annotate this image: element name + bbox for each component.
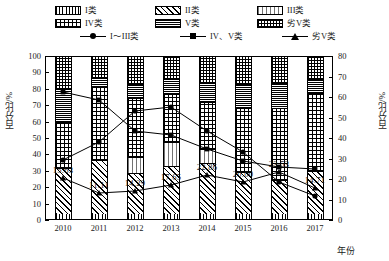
y-axis-left-tick bbox=[45, 72, 49, 73]
y-axis-left-tick-label: 70 bbox=[15, 100, 41, 110]
legend-label-II: II类 bbox=[185, 6, 200, 15]
bar-segment-V类 bbox=[92, 78, 107, 87]
legend-label-line-IV-V: IV、V类 bbox=[210, 32, 243, 41]
bar-segment-I类 bbox=[236, 214, 251, 219]
bar-segment-V类 bbox=[164, 79, 179, 93]
stacked-bar[interactable] bbox=[235, 56, 252, 220]
legend-label-line-inferior-V: 劣V类 bbox=[312, 32, 336, 41]
y-axis-left-tick-label: 90 bbox=[15, 67, 41, 77]
legend-swatch-I-icon bbox=[55, 6, 81, 15]
y-axis-right-tick-label: 70 bbox=[338, 72, 364, 82]
bar-segment-I类 bbox=[128, 214, 143, 219]
data-label-inferior-V: 20.00 bbox=[223, 169, 263, 179]
bar-segment-I类 bbox=[308, 214, 323, 219]
y-axis-right-tick bbox=[329, 220, 333, 221]
bar-segment-III类 bbox=[128, 157, 143, 173]
bar-segment-劣V类 bbox=[236, 56, 251, 84]
bar-segment-劣V类 bbox=[200, 56, 215, 83]
y-axis-left-tick bbox=[45, 138, 49, 139]
y-axis-left-tick-label: 10 bbox=[15, 199, 41, 209]
stacked-bar[interactable] bbox=[127, 56, 144, 220]
bar-segment-V类 bbox=[308, 79, 323, 93]
x-axis-tick-label: 2016 bbox=[259, 223, 299, 233]
y-axis-left-tick-label: 30 bbox=[15, 166, 41, 176]
y-axis-left-tick bbox=[45, 154, 49, 155]
bar-segment-IV类 bbox=[200, 102, 215, 149]
stacked-bar[interactable] bbox=[271, 56, 288, 220]
bar-segment-劣V类 bbox=[272, 56, 287, 83]
bar-segment-IV类 bbox=[164, 94, 179, 142]
bar-segment-I类 bbox=[272, 214, 287, 219]
bar-segment-IV类 bbox=[236, 108, 251, 172]
chart-root: I类 II类 III类 IV类 V类 劣V类 bbox=[0, 0, 389, 261]
bar-segment-I类 bbox=[56, 214, 71, 219]
bar-segment-V类 bbox=[56, 89, 71, 122]
legend-item-inferior-V[interactable]: 劣V类 bbox=[257, 19, 311, 28]
legend-item-V[interactable]: V类 bbox=[155, 19, 257, 28]
legend-label-V: V类 bbox=[185, 19, 200, 28]
legend-row-1: I类 II类 III类 bbox=[55, 6, 305, 15]
y-axis-right-tick-label: 10 bbox=[338, 195, 364, 205]
y-axis-right-tick bbox=[329, 138, 333, 139]
stacked-bar[interactable] bbox=[91, 56, 108, 220]
legend-label-IV: IV类 bbox=[85, 19, 103, 28]
y-axis-left-tick-label: 40 bbox=[15, 149, 41, 159]
x-axis-tick-label: 2015 bbox=[223, 223, 263, 233]
y-axis-right-tick bbox=[329, 200, 333, 201]
stacked-bar[interactable] bbox=[307, 56, 324, 220]
bar-segment-I类 bbox=[200, 214, 215, 219]
legend-item-line-inferior-V[interactable]: 劣V类 bbox=[282, 32, 336, 41]
x-axis-tick-label: 2013 bbox=[151, 223, 191, 233]
x-axis-tick-label: 2014 bbox=[187, 223, 227, 233]
legend-label-III: III类 bbox=[287, 6, 305, 15]
x-axis-tick-label: 2010 bbox=[43, 223, 83, 233]
y-axis-left-tick bbox=[45, 105, 49, 106]
bar-segment-III类 bbox=[200, 149, 215, 163]
y-axis-left-tick bbox=[45, 220, 49, 221]
y-axis-left-title: 百分比/% bbox=[2, 92, 15, 129]
y-axis-right-tick bbox=[329, 77, 333, 78]
data-label-inferior-V: 11.11 bbox=[79, 180, 119, 190]
y-axis-left-tick-label: 100 bbox=[15, 51, 41, 61]
legend-item-II[interactable]: II类 bbox=[155, 6, 257, 15]
bar-segment-劣V类 bbox=[308, 56, 323, 79]
legend-row-3: I～III类 IV、V类 劣V类 bbox=[80, 32, 336, 41]
stacked-bar[interactable] bbox=[163, 56, 180, 220]
y-axis-left-tick bbox=[45, 89, 49, 90]
stacked-bar[interactable] bbox=[55, 56, 72, 220]
legend-label-inferior-V: 劣V类 bbox=[287, 19, 311, 28]
data-label-inferior-V: 14.29 bbox=[115, 178, 155, 188]
y-axis-right-tick bbox=[329, 97, 333, 98]
legend-item-line-I-III[interactable]: I～III类 bbox=[80, 32, 180, 41]
data-label-inferior-V: 22.86 bbox=[187, 162, 227, 172]
bar-segment-IV类 bbox=[308, 93, 323, 170]
legend-item-line-IV-V[interactable]: IV、V类 bbox=[180, 32, 282, 41]
legend-item-I[interactable]: I类 bbox=[55, 6, 155, 15]
bar-segment-劣V类 bbox=[92, 56, 107, 78]
bar-segment-V类 bbox=[200, 83, 215, 102]
y-axis-left-tick-label: 60 bbox=[15, 117, 41, 127]
y-axis-right-tick-label: 20 bbox=[338, 174, 364, 184]
y-axis-left-tick bbox=[45, 187, 49, 188]
legend-swatch-II-icon bbox=[155, 6, 181, 15]
legend-label-line-I-III: I～III类 bbox=[110, 32, 139, 41]
x-axis-title: 年份 bbox=[337, 244, 355, 257]
y-axis-right-tick-label: 40 bbox=[338, 133, 364, 143]
legend-swatch-inferior-V-icon bbox=[257, 19, 283, 28]
bar-segment-III类 bbox=[164, 142, 179, 166]
bar-segment-IV类 bbox=[56, 122, 71, 168]
legend-item-IV[interactable]: IV类 bbox=[55, 19, 155, 28]
bar-segment-I类 bbox=[92, 214, 107, 219]
data-label-inferior-V: 15.63 bbox=[43, 165, 83, 175]
stacked-bar[interactable] bbox=[199, 56, 216, 220]
plot-area bbox=[45, 56, 333, 220]
y-axis-left-tick bbox=[45, 122, 49, 123]
legend-swatch-V-icon bbox=[155, 19, 181, 28]
y-axis-right-title: 百分比/% bbox=[375, 92, 388, 129]
bar-segment-劣V类 bbox=[128, 56, 143, 84]
legend-swatch-III-icon bbox=[257, 6, 283, 15]
legend-line-square-icon bbox=[180, 32, 206, 41]
legend-item-III[interactable]: III类 bbox=[257, 6, 305, 15]
bar-segment-I类 bbox=[164, 214, 179, 219]
y-axis-right-tick-label: 60 bbox=[338, 92, 364, 102]
